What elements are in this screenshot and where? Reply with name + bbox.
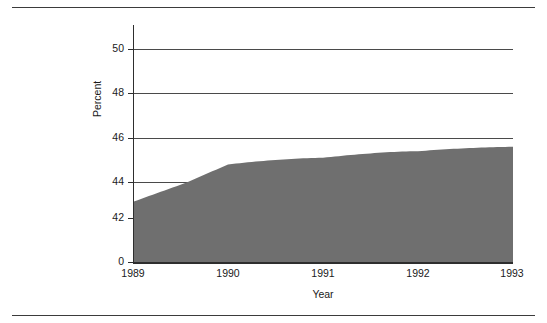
ytick-label-0: 0 xyxy=(118,256,124,267)
bottom-divider-rule xyxy=(12,315,535,316)
ytick-label-50: 50 xyxy=(112,43,124,54)
xtick-label-1989: 1989 xyxy=(103,268,163,279)
ytick-label-46-wrap: 46 xyxy=(0,132,124,143)
ytick-label-48-wrap: 48 xyxy=(0,87,124,98)
y-axis-line xyxy=(133,25,134,263)
x-axis-title: Year xyxy=(133,288,513,300)
area-series-plot xyxy=(133,25,513,263)
xtick-label-1990: 1990 xyxy=(198,268,258,279)
ytick-label-44: 44 xyxy=(112,176,124,187)
top-divider-rule xyxy=(12,7,535,8)
ytick-label-46: 46 xyxy=(112,132,124,143)
xtick-label-1991: 1991 xyxy=(293,268,353,279)
area-fill-path xyxy=(133,147,513,263)
x-axis-line xyxy=(133,262,513,264)
ytick-label-44-wrap: 44 xyxy=(0,176,124,187)
chart-figure: 50 48 46 44 42 0 1989 1990 1991 1992 199… xyxy=(0,0,547,323)
ytick-label-42-wrap: 42 xyxy=(0,212,124,223)
ytick-label-48: 48 xyxy=(112,87,124,98)
xtick-label-1992: 1992 xyxy=(388,268,448,279)
ytick-label-0-wrap: 0 xyxy=(0,256,124,267)
xtick-label-1993: 1993 xyxy=(482,268,542,279)
ytick-label-50-wrap: 50 xyxy=(0,43,124,54)
ytick-label-42: 42 xyxy=(112,212,124,223)
y-axis-title: Percent xyxy=(91,81,103,117)
